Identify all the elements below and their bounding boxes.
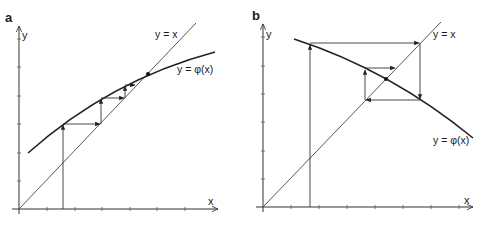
panel-a-label: a (5, 10, 13, 25)
diagram-canvas: a y x y = x y = φ(x) (0, 0, 481, 227)
phi-label: y = φ(x) (177, 63, 213, 75)
panel-a: a y x y = x y = φ(x) (5, 10, 218, 214)
x-axis-label: x (208, 195, 214, 207)
identity-line (263, 22, 441, 207)
x-axis-label: x (464, 194, 470, 206)
panel-b-label: b (252, 8, 260, 23)
phi-label: y = φ(x) (433, 134, 469, 146)
iteration-path (310, 43, 420, 207)
identity-line (19, 23, 196, 209)
fixed-point (146, 72, 150, 76)
iteration-path (63, 85, 135, 209)
fixed-point (384, 77, 388, 81)
panel-b: b y x y = x y = φ(x) (252, 8, 473, 212)
identity-label: y = x (433, 28, 456, 40)
y-axis-label: y (266, 28, 272, 40)
phi-curve (294, 39, 473, 138)
identity-label: y = x (155, 28, 178, 40)
y-axis-label: y (22, 29, 28, 41)
